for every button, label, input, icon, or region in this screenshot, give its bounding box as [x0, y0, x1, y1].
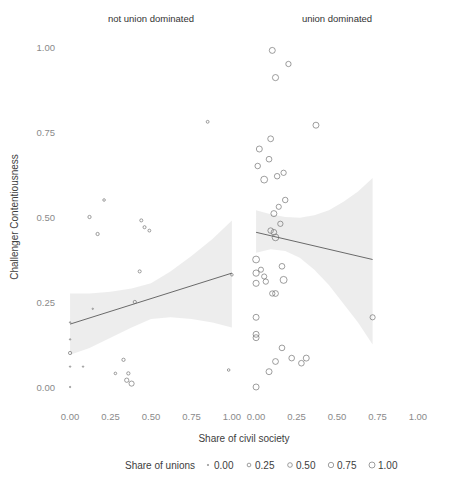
legend-key-label: 0.00	[214, 460, 234, 471]
x-axis-tick-p1-0.75: 0.75	[368, 411, 387, 422]
x-axis-tick-p0-0.75: 0.75	[182, 411, 201, 422]
panel-union-dominated	[248, 30, 426, 404]
y-axis-tick-0.75: 0.75	[37, 127, 56, 138]
x-axis-tick-p0-1.00: 1.00	[223, 411, 242, 422]
y-axis-tick-0.25: 0.25	[37, 297, 56, 308]
legend-key-label: 0.75	[337, 460, 357, 471]
x-axis-tick-p0-0.50: 0.50	[142, 411, 161, 422]
x-axis-tick-p1-0.50: 0.50	[328, 411, 347, 422]
y-axis-tick-0.00: 0.00	[37, 382, 56, 393]
y-axis-tick-1.00: 1.00	[37, 42, 56, 53]
legend-title: Share of unions	[125, 460, 195, 471]
facet-strip-union-dominated: union dominated	[302, 13, 372, 24]
x-axis-tick-p0-0.25: 0.25	[101, 411, 120, 422]
x-axis-title: Share of civil society	[198, 433, 289, 444]
plot-root: not union dominatedunion dominated 0.000…	[0, 0, 459, 481]
x-axis-tick-p1-0.25: 0.25	[287, 411, 306, 422]
facet-strip-not-union-dominated: not union dominated	[108, 13, 194, 24]
y-axis-title: Challenger Contentiousness	[9, 154, 20, 280]
x-axis-tick-p1-1.00: 1.00	[409, 411, 428, 422]
legend-key-label: 0.25	[255, 460, 275, 471]
y-axis-tick-0.50: 0.50	[37, 212, 56, 223]
legend-key-label: 1.00	[378, 460, 398, 471]
panel-not-union-dominated	[62, 30, 240, 404]
x-axis-tick-p1-0.00: 0.00	[247, 411, 266, 422]
x-axis-tick-p0-0.00: 0.00	[61, 411, 80, 422]
scatter-plot-figure: not union dominatedunion dominated 0.000…	[0, 0, 459, 481]
legend-key-label: 0.50	[296, 460, 316, 471]
